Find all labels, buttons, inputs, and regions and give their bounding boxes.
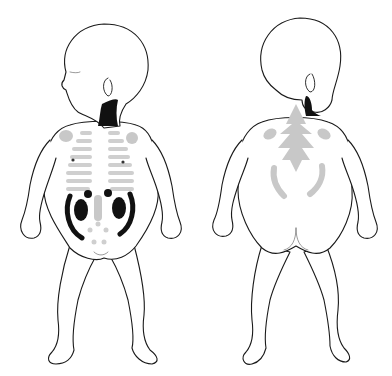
anterior-right-leg bbox=[110, 245, 157, 364]
anterior-midline-spine bbox=[94, 195, 102, 221]
anterior-torso bbox=[44, 121, 158, 259]
anterior-view bbox=[21, 24, 182, 364]
anterior-left-kidney bbox=[74, 199, 88, 221]
posterior-view bbox=[213, 18, 378, 364]
anterior-left-leg bbox=[49, 245, 96, 364]
anterior-right-shoulder-patch bbox=[126, 132, 138, 144]
anterior-left-nipple bbox=[71, 158, 74, 161]
anterior-right-upper-dot bbox=[104, 189, 112, 197]
posterior-head bbox=[261, 18, 341, 112]
posterior-right-leg bbox=[304, 245, 350, 362]
posterior-left-leg bbox=[243, 245, 290, 364]
anterior-left-shoulder-patch bbox=[59, 130, 73, 142]
anterior-left-upper-dot bbox=[84, 190, 92, 198]
infant-anatomy-figure bbox=[0, 0, 392, 376]
anterior-right-kidney bbox=[112, 197, 126, 219]
anterior-right-nipple bbox=[121, 160, 124, 163]
